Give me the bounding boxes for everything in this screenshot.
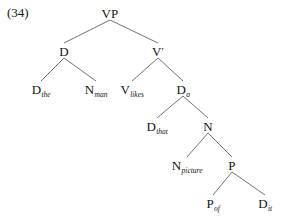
- tree-node-n: N: [203, 120, 213, 133]
- tree-edge-d-to-d-the: [41, 58, 64, 81]
- tree-node-label: N: [203, 119, 213, 134]
- tree-edge-d-a-to-n: [183, 96, 208, 118]
- tree-node-subscript: man: [95, 89, 108, 98]
- tree-node-vp: VP: [102, 7, 119, 20]
- tree-node-label: D: [176, 82, 186, 97]
- tree-node-label: N: [85, 82, 95, 97]
- tree-node-label: D: [258, 196, 268, 211]
- tree-edge-vbar-to-d-a: [158, 58, 183, 81]
- tree-node-label: D: [59, 44, 69, 59]
- tree-node-p: P: [228, 159, 235, 172]
- tree-node-label: VP: [102, 6, 119, 21]
- tree-node-subscript: of: [214, 203, 220, 212]
- tree-node-subscript: it: [268, 203, 272, 212]
- tree-node-vbar: V′: [152, 45, 164, 58]
- tree-node-label: P: [228, 158, 235, 173]
- tree-edge-n-to-n-picture: [187, 133, 208, 157]
- tree-edge-vbar-to-v-likes: [132, 58, 158, 81]
- tree-edge-n-to-p: [208, 133, 232, 157]
- syntax-tree-figure: (34) VPDV′DtheNmanVlikesDaDthatNNpicture…: [0, 0, 281, 222]
- tree-node-subscript: picture: [182, 165, 203, 174]
- tree-node-label: D: [146, 119, 156, 134]
- tree-node-label: V: [152, 44, 162, 59]
- tree-edge-p-to-d-it: [232, 172, 265, 195]
- tree-edge-d-a-to-d-that: [157, 96, 183, 118]
- tree-node-label: P: [206, 196, 213, 211]
- tree-node-prime-mark: ′: [161, 45, 164, 57]
- tree-node-d: D: [59, 45, 69, 58]
- tree-edge-vp-to-vbar: [110, 20, 158, 43]
- tree-node-d-that: Dthat: [146, 120, 167, 133]
- tree-node-subscript: likes: [130, 89, 144, 98]
- tree-node-d-a: Da: [176, 83, 189, 96]
- tree-edge-d-to-n-man: [64, 58, 96, 81]
- tree-edges: [0, 0, 281, 222]
- tree-node-n-man: Nman: [85, 83, 107, 96]
- tree-node-label: V: [120, 82, 130, 97]
- tree-node-subscript: the: [41, 89, 50, 98]
- tree-edge-p-to-p-of: [213, 172, 232, 195]
- tree-node-n-picture: Npicture: [172, 159, 202, 172]
- tree-node-v-likes: Vlikes: [120, 83, 143, 96]
- tree-node-label: N: [172, 158, 182, 173]
- tree-node-p-of: Pof: [206, 197, 219, 210]
- tree-node-subscript: that: [156, 126, 168, 135]
- tree-node-label: D: [32, 82, 42, 97]
- tree-node-d-it: Dit: [258, 197, 272, 210]
- tree-node-d-the: Dthe: [32, 83, 51, 96]
- tree-edge-vp-to-d: [64, 20, 110, 43]
- tree-node-subscript: a: [186, 89, 190, 98]
